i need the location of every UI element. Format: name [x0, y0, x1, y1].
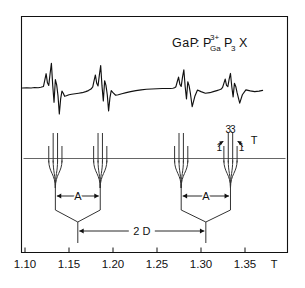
figure-background [0, 0, 305, 288]
x-axis-tick-label: 1.15 [58, 258, 80, 270]
x-axis-tick-label: 1.35 [234, 258, 256, 270]
intensity-label-1-left: 1 [217, 142, 223, 153]
formula-suffix: X [239, 36, 248, 50]
intensity-label-3-right: 3 [230, 124, 236, 135]
label-2D: 2 D [133, 225, 150, 237]
formula-center-subscript: Ga [210, 44, 221, 53]
x-axis-tick-label: 1.20 [102, 258, 124, 270]
intensity-label-1-right: 1 [239, 142, 245, 153]
formula-separator: : [196, 36, 199, 50]
spectrum-figure: GaP : P 3+ Ga P 3 X A A 2 D 3 3 1 1 T 1.… [0, 0, 305, 288]
x-axis-tick-label: 1.30 [190, 258, 212, 270]
formula-ligand-subscript: 3 [231, 44, 236, 53]
formula-center-superscript: 3+ [210, 33, 219, 42]
label-A-right: A [202, 190, 210, 202]
x-axis-tick-label: 1.10 [14, 258, 36, 270]
x-axis-unit-label: T [271, 258, 278, 270]
label-A-left: A [74, 190, 82, 202]
formula-host: GaP [172, 36, 199, 50]
x-axis-tick-label: 1.25 [146, 258, 168, 270]
figure-root: GaP : P 3+ Ga P 3 X A A 2 D 3 3 1 1 T 1.… [0, 0, 305, 288]
quartet-label-T: T [251, 134, 258, 146]
